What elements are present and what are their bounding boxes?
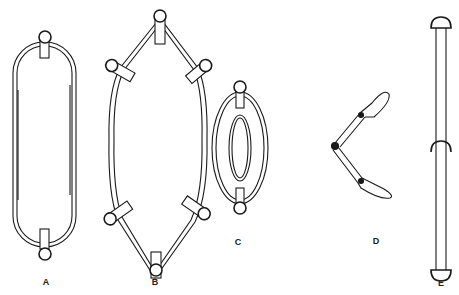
diagram-canvas bbox=[0, 0, 459, 295]
label-e: E bbox=[438, 278, 444, 288]
device-c bbox=[212, 81, 268, 214]
label-d: D bbox=[373, 236, 380, 246]
device-a bbox=[13, 31, 76, 260]
label-a: A bbox=[43, 277, 50, 287]
device-e bbox=[431, 17, 451, 281]
label-c: C bbox=[235, 237, 242, 247]
device-b bbox=[102, 10, 214, 278]
device-d bbox=[332, 92, 392, 198]
label-b: B bbox=[152, 277, 159, 287]
